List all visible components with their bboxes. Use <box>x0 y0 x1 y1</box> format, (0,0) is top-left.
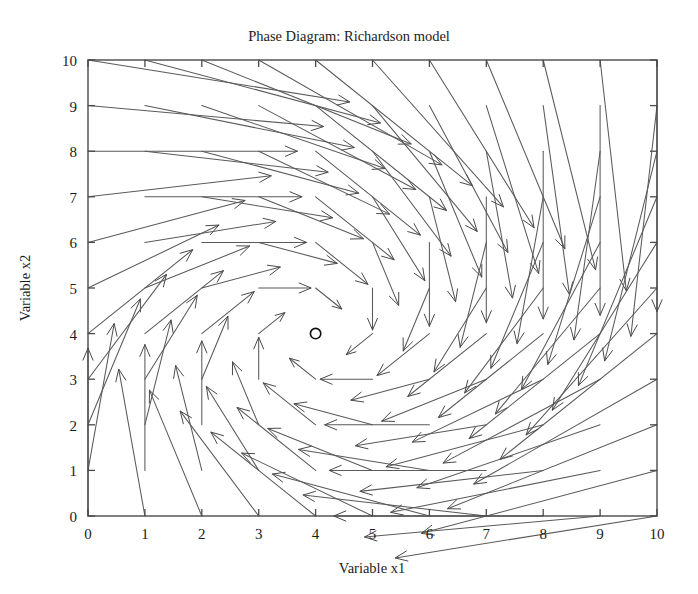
y-tick-label: 7 <box>70 190 78 206</box>
x-tick-label: 3 <box>255 526 263 542</box>
vector-arrow-shaft <box>351 379 430 400</box>
vector-arrow-shaft <box>316 242 368 284</box>
vector-arrow-shaft <box>526 288 657 435</box>
y-tick-label: 5 <box>70 281 78 297</box>
vector-arrow-shaft <box>434 288 486 372</box>
equilibrium-point-marker <box>310 328 320 338</box>
vector-arrow-shaft <box>429 197 455 302</box>
vector-arrow-shaft <box>88 225 219 288</box>
vector-arrow-shaft <box>119 369 145 516</box>
y-axis-ticks: 012345678910 <box>62 53 657 525</box>
y-tick-label: 8 <box>70 144 78 160</box>
x-tick-label: 10 <box>650 526 665 542</box>
x-tick-label: 5 <box>369 526 377 542</box>
x-axis-ticks: 012345678910 <box>84 60 664 542</box>
vector-arrow-shaft <box>346 334 372 355</box>
vector-arrow-shaft <box>176 366 202 471</box>
vector-arrow-shaft <box>180 411 259 516</box>
vector-arrow-shaft <box>495 288 600 414</box>
equilibrium-circle <box>310 328 320 338</box>
vector-arrow-shaft <box>259 313 285 334</box>
vector-arrow-shaft <box>202 151 359 193</box>
x-tick-label: 2 <box>198 526 206 542</box>
y-tick-label: 2 <box>70 418 78 434</box>
vector-arrow-shaft <box>88 106 324 127</box>
vector-arrow-shaft <box>259 197 364 239</box>
vector-arrow-shaft <box>605 151 657 361</box>
vector-arrow-shaft <box>486 60 565 249</box>
y-tick-label: 10 <box>62 53 77 69</box>
y-tick-label: 3 <box>70 372 78 388</box>
vector-arrow-shaft <box>263 383 315 425</box>
vector-arrow-shaft <box>391 470 600 512</box>
vector-arrow-shaft <box>600 60 626 291</box>
x-tick-label: 4 <box>312 526 320 542</box>
vector-arrow-shaft <box>202 106 385 169</box>
x-tick-label: 7 <box>483 526 491 542</box>
vector-arrow-shaft <box>268 428 373 470</box>
vector-arrow-shaft <box>202 316 228 379</box>
y-tick-label: 4 <box>70 327 78 343</box>
vector-arrow-shaft <box>145 221 276 242</box>
vector-arrow-shaft <box>145 246 250 288</box>
y-tick-label: 1 <box>70 463 78 479</box>
vector-arrow-shaft <box>88 200 245 242</box>
vector-arrow-shaft <box>88 176 271 197</box>
x-tick-label: 1 <box>141 526 149 542</box>
vector-arrow-shaft <box>233 362 259 425</box>
vector-arrow-shaft <box>373 197 425 281</box>
phase-diagram-canvas: Phase Diagram: Richardson model Variable… <box>0 0 698 594</box>
vector-arrow-shaft <box>486 151 512 298</box>
vector-arrow-shaft <box>145 151 328 172</box>
y-axis-label: Variable x2 <box>17 255 33 321</box>
x-tick-label: 6 <box>426 526 434 542</box>
vector-arrow-shaft <box>259 60 442 165</box>
vector-arrow-shaft <box>316 60 473 186</box>
x-axis-label: Variable x1 <box>339 560 405 576</box>
vector-arrow-shaft <box>289 358 315 379</box>
vector-arrow-shaft <box>543 106 569 295</box>
vector-arrow-shaft <box>149 390 201 516</box>
vector-arrow-shaft <box>145 295 197 379</box>
vector-arrow-shaft <box>211 432 316 516</box>
vector-arrow-shaft <box>500 334 657 460</box>
chart-title: Phase Diagram: Richardson model <box>248 28 450 44</box>
vector-arrow-shaft <box>403 288 429 351</box>
phase-diagram-figure: Phase Diagram: Richardson model Variable… <box>0 0 698 594</box>
x-tick-label: 8 <box>539 526 547 542</box>
vector-arrow-shaft <box>373 242 399 305</box>
y-tick-label: 9 <box>70 99 78 115</box>
y-tick-label: 0 <box>70 509 78 525</box>
vector-field-arrows <box>83 60 662 561</box>
vector-arrow-shaft <box>355 425 486 446</box>
x-tick-label: 0 <box>84 526 92 542</box>
vector-arrow-shaft <box>412 379 543 442</box>
x-tick-label: 9 <box>596 526 604 542</box>
vector-arrow-shaft <box>202 267 281 288</box>
vector-arrow-shaft <box>574 151 600 340</box>
vector-arrow-shaft <box>88 299 140 425</box>
vector-arrow-shaft <box>373 151 452 256</box>
vector-arrow-shaft <box>316 288 342 309</box>
y-tick-label: 6 <box>70 235 78 251</box>
vector-arrow-shaft <box>88 324 114 471</box>
vector-arrow-shaft <box>386 425 543 467</box>
vector-arrow-shaft <box>429 151 481 277</box>
vector-arrow-shaft <box>486 106 538 274</box>
vector-arrow-shaft <box>491 242 543 368</box>
vector-arrow-shaft <box>522 242 601 389</box>
